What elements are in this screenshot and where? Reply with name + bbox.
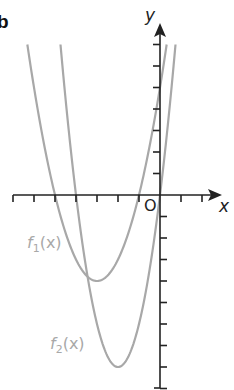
f2-subscript: 2 bbox=[56, 343, 63, 356]
f1-subscript: 1 bbox=[33, 242, 40, 255]
f1-label: f1(x) bbox=[27, 233, 62, 255]
x-axis-label: x bbox=[219, 196, 229, 216]
f2-label: f2(x) bbox=[50, 334, 85, 356]
x-axis bbox=[13, 189, 222, 202]
y-axis-label: y bbox=[145, 5, 155, 25]
f1-arg: (x) bbox=[40, 233, 62, 252]
f2-arg: (x) bbox=[63, 334, 85, 353]
graph bbox=[0, 0, 234, 390]
origin-label: O bbox=[144, 196, 157, 215]
